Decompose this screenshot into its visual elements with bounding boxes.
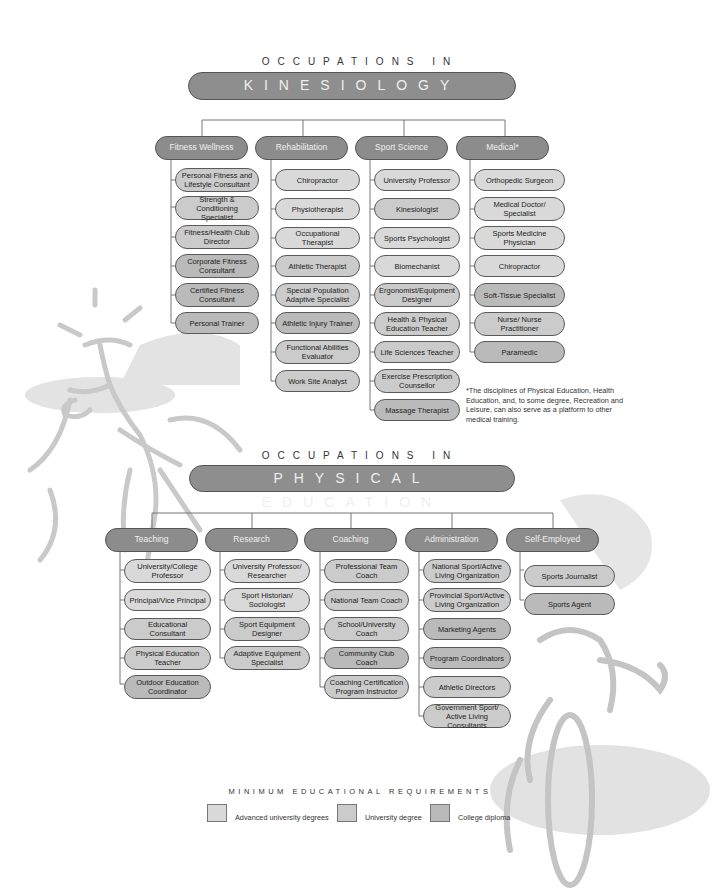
job-box: Physical Education Teacher — [124, 646, 211, 670]
category-administration: Administration — [405, 528, 498, 552]
legend-label: University degree — [365, 813, 422, 822]
job-box: Provincial Sport/Active Living Organizat… — [423, 588, 511, 612]
category-research: Research — [205, 528, 298, 552]
job-box: Professional Team Coach — [324, 559, 409, 583]
diagram: OCCUPATIONS IN KINESIOLOGY Fitness Welln… — [0, 0, 720, 893]
physical-education-connectors — [0, 0, 720, 893]
job-box: Sports Agent — [524, 593, 615, 615]
job-box: Coaching Certification Program Instructo… — [324, 675, 409, 699]
job-box: School/University Coach — [324, 617, 409, 641]
job-box: University Professor/ Researcher — [224, 559, 310, 583]
job-box: Educational Consultant — [124, 618, 211, 640]
job-box: National Team Coach — [324, 589, 409, 611]
job-box: Principal/Vice Principal — [124, 589, 211, 611]
job-box: National Sport/Active Living Organizatio… — [423, 559, 511, 583]
job-box: Sport Historian/ Sociologist — [224, 588, 310, 612]
job-box: Sports Journalist — [524, 565, 615, 587]
category-self-employed: Self-Employed — [506, 528, 599, 552]
job-box: Government Sport/ Active Living Consulta… — [423, 704, 511, 728]
job-box: Sport Equipment Designer — [224, 617, 310, 641]
legend-swatch-university — [337, 804, 357, 822]
legend-item-university: University degree — [337, 804, 422, 822]
legend-swatch-college — [430, 804, 450, 822]
legend-label: College diploma — [458, 813, 510, 822]
job-box: Athletic Directors — [423, 676, 511, 698]
legend-item-college: College diploma — [430, 804, 510, 822]
job-box: Community Club Coach — [324, 647, 409, 669]
category-teaching: Teaching — [105, 528, 198, 552]
legend-swatch-advanced — [207, 804, 227, 822]
job-box: Adaptive Equipment Specialist — [224, 646, 310, 670]
job-box: University/College Professor — [124, 559, 211, 583]
job-box: Program Coordinators — [423, 647, 511, 669]
job-box: Marketing Agents — [423, 618, 511, 640]
legend-label: Advanced university degrees — [235, 813, 329, 822]
legend-item-advanced: Advanced university degrees — [207, 804, 329, 822]
job-box: Outdoor Education Coordinator — [124, 675, 211, 699]
legend-title: MINIMUM EDUCATIONAL REQUIREMENTS — [0, 787, 720, 796]
category-coaching: Coaching — [304, 528, 397, 552]
